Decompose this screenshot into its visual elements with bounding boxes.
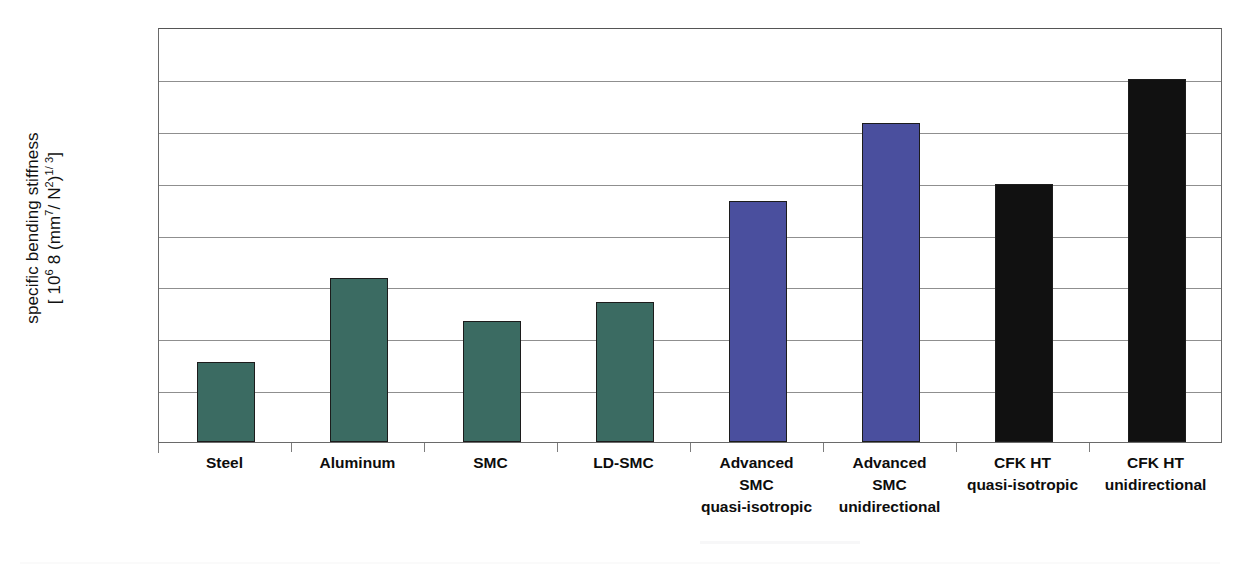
x-axis-tick [291, 443, 292, 452]
bar[interactable] [463, 321, 521, 442]
x-axis-tick [690, 443, 691, 452]
y-axis-title: specific bending stiffness [ 106 8 (mm7/… [12, 8, 76, 448]
scan-artifact [20, 562, 1220, 564]
x-axis-label-line: LD-SMC [557, 452, 690, 474]
y-axis-title-line2: [ 106 8 (mm7/ N2)1/ 3] [44, 152, 66, 304]
bar[interactable] [729, 201, 787, 442]
x-axis-label-line: SMC [690, 474, 823, 496]
y-axis-unit-suffix: ] [45, 152, 64, 157]
bar[interactable] [330, 278, 388, 442]
x-axis-label-line: CFK HT [956, 452, 1089, 474]
plot-area [158, 28, 1222, 443]
bar[interactable] [1128, 79, 1186, 442]
x-axis-label-line: Advanced [690, 452, 823, 474]
y-axis-title-line1: specific bending stiffness [22, 132, 44, 323]
x-axis-category-labels: SteelAluminumSMCLD-SMCAdvancedSMCquasi-i… [158, 452, 1222, 552]
x-axis-label-line: CFK HT [1089, 452, 1222, 474]
bars-layer [159, 29, 1221, 442]
x-axis-label: AdvancedSMCunidirectional [823, 452, 956, 518]
scan-artifact [700, 541, 860, 544]
y-axis-unit-prefix: [ 10 [45, 275, 64, 304]
x-axis-tick [424, 443, 425, 452]
y-axis-unit-exp-6: 6 [43, 269, 55, 275]
x-axis-label-line: Aluminum [291, 452, 424, 474]
y-axis-unit-exp-third: 1/ 3 [43, 157, 55, 176]
chart-page: specific bending stiffness [ 106 8 (mm7/… [0, 0, 1248, 569]
y-axis-unit-exp-2: 2 [43, 181, 55, 187]
x-axis-label-line: Steel [158, 452, 291, 474]
x-axis-label-line: unidirectional [1089, 474, 1222, 496]
x-axis-label-line: SMC [424, 452, 557, 474]
x-axis-tick [823, 443, 824, 452]
x-axis-label: AdvancedSMCquasi-isotropic [690, 452, 823, 518]
y-axis-unit-mid3: ) [45, 175, 64, 181]
bar[interactable] [862, 123, 920, 442]
x-axis-label-line: quasi-isotropic [690, 496, 823, 518]
y-axis-unit-mid: 8 (mm [45, 216, 64, 269]
x-axis-label-line: SMC [823, 474, 956, 496]
x-axis-tick [1089, 443, 1090, 452]
x-axis-label-line: Advanced [823, 452, 956, 474]
y-axis-unit-mid2: / N [45, 187, 64, 209]
bar[interactable] [197, 362, 255, 442]
x-axis-label-line: unidirectional [823, 496, 956, 518]
x-axis-label: LD-SMC [557, 452, 690, 474]
x-axis-label: SMC [424, 452, 557, 474]
bar[interactable] [995, 184, 1053, 442]
x-axis-label: Aluminum [291, 452, 424, 474]
x-axis-label: CFK HTquasi-isotropic [956, 452, 1089, 496]
bar[interactable] [596, 302, 654, 442]
y-axis-unit-exp-7: 7 [43, 209, 55, 215]
x-axis-tick [557, 443, 558, 452]
x-axis-label: CFK HTunidirectional [1089, 452, 1222, 496]
x-axis-label: Steel [158, 452, 291, 474]
x-axis-tick [956, 443, 957, 452]
x-axis-label-line: quasi-isotropic [956, 474, 1089, 496]
